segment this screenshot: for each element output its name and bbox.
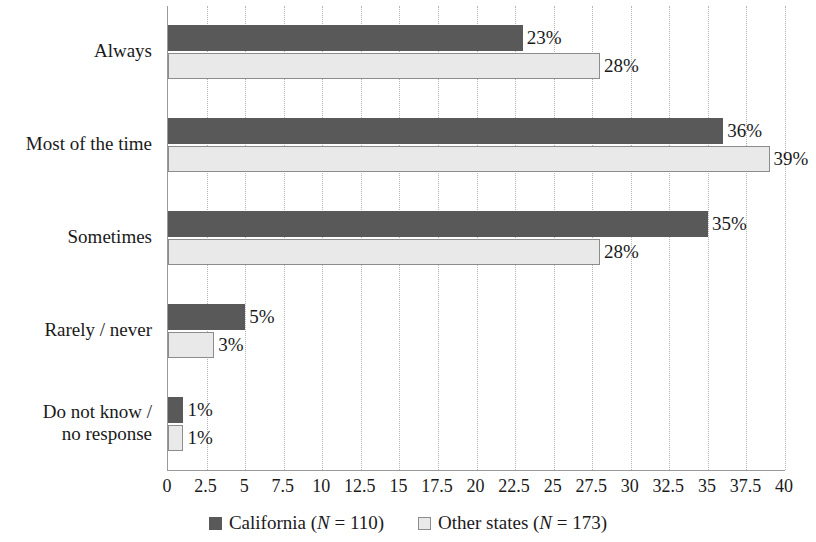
legend-label: California (N = 110)	[229, 511, 384, 535]
bar	[168, 25, 523, 51]
chart-legend: California (N = 110)Other states (N = 17…	[0, 508, 816, 538]
bar	[168, 146, 770, 172]
x-tick-label: 10	[312, 474, 330, 498]
category-label: Sometimes	[68, 226, 152, 248]
legend-label: Other states (N = 173)	[438, 511, 607, 535]
bar	[168, 239, 600, 265]
legend-swatch-icon	[209, 517, 222, 530]
horizontal-bar-chart: AlwaysMost of the timeSometimesRarely / …	[0, 0, 816, 542]
bar-value-label: 36%	[727, 118, 762, 144]
x-tick-label: 7.5	[271, 474, 294, 498]
x-tick-label: 32.5	[653, 474, 685, 498]
x-tick-label: 2.5	[194, 474, 217, 498]
x-tick-label: 27.5	[575, 474, 607, 498]
x-axis-tick-labels: 02.557.51012.51517.52022.52527.53032.535…	[167, 474, 784, 500]
x-tick-label: 12.5	[344, 474, 376, 498]
bar-value-label: 23%	[527, 25, 562, 51]
legend-item[interactable]: California (N = 110)	[209, 511, 384, 535]
x-tick-label: 0	[163, 474, 172, 498]
bar	[168, 211, 708, 237]
category-label: Most of the time	[26, 133, 152, 155]
x-tick-label: 37.5	[730, 474, 762, 498]
bar	[168, 397, 183, 423]
gridline	[669, 6, 670, 470]
x-tick-label: 25	[544, 474, 562, 498]
bar-value-label: 35%	[712, 211, 747, 237]
category-label: Always	[94, 40, 152, 62]
legend-item[interactable]: Other states (N = 173)	[418, 511, 607, 535]
bar	[168, 53, 600, 79]
bar-value-label: 28%	[604, 53, 639, 79]
gridline	[708, 6, 709, 470]
gridline	[785, 6, 786, 470]
bar	[168, 425, 183, 451]
x-tick-label: 17.5	[421, 474, 453, 498]
x-tick-label: 15	[389, 474, 407, 498]
bar	[168, 118, 723, 144]
category-label: Do not know / no response	[43, 401, 152, 445]
x-tick-label: 30	[621, 474, 639, 498]
legend-swatch-icon	[418, 517, 431, 530]
gridline	[746, 6, 747, 470]
x-tick-label: 20	[467, 474, 485, 498]
bar	[168, 304, 245, 330]
bar-value-label: 1%	[187, 397, 212, 423]
category-label: Rarely / never	[44, 319, 152, 341]
bar	[168, 332, 214, 358]
x-tick-label: 5	[240, 474, 249, 498]
bar-value-label: 1%	[187, 425, 212, 451]
bar-value-label: 39%	[774, 146, 809, 172]
plot-area: 23%28%36%39%35%28%5%3%1%1%	[167, 6, 785, 471]
bar-value-label: 5%	[249, 304, 274, 330]
x-tick-label: 35	[698, 474, 716, 498]
category-axis-labels: AlwaysMost of the timeSometimesRarely / …	[0, 0, 160, 470]
bar-value-label: 28%	[604, 239, 639, 265]
x-tick-label: 40	[775, 474, 793, 498]
bar-value-label: 3%	[218, 332, 243, 358]
x-tick-label: 22.5	[498, 474, 530, 498]
